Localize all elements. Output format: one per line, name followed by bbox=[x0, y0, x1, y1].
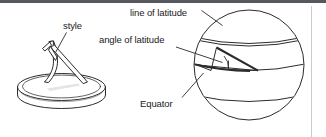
globe-group bbox=[193, 10, 305, 120]
label-style: style bbox=[63, 21, 82, 31]
leader-line-line-of-latitude bbox=[202, 11, 223, 26]
label-angle-of-latitude: angle of latitude bbox=[99, 35, 164, 45]
figure-canvas: style line of latitude angle of latitude… bbox=[0, 0, 326, 137]
sundial-group bbox=[18, 41, 106, 109]
leader-line-style bbox=[56, 33, 67, 53]
label-equator: Equator bbox=[140, 99, 173, 109]
label-line-of-latitude: line of latitude bbox=[130, 8, 187, 18]
diagram-illustration bbox=[0, 0, 326, 137]
